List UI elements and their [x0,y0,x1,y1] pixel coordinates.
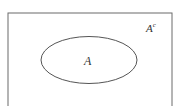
set-a-label: A [83,54,92,68]
complement-label: Ac [145,21,157,34]
venn-diagram: A Ac [0,0,186,106]
